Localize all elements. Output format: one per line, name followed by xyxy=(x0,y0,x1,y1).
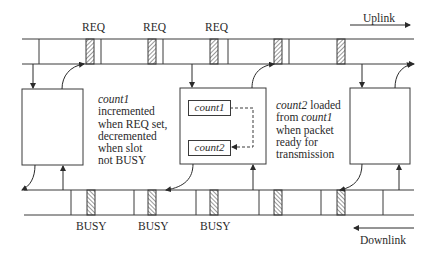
req-label: REQ xyxy=(205,21,228,33)
busy-label: BUSY xyxy=(76,220,107,232)
node-right xyxy=(350,88,410,164)
busy-label: BUSY xyxy=(200,220,231,232)
uplink-label: Uplink xyxy=(363,12,395,24)
count1-register: count1 xyxy=(188,100,231,116)
busy-label: BUSY xyxy=(138,220,169,232)
count2-note: count2 loaded from count1 when packet re… xyxy=(276,99,341,160)
req-label: REQ xyxy=(143,21,166,33)
req-label: REQ xyxy=(82,21,105,33)
node-left xyxy=(22,89,83,165)
count2-register: count2 xyxy=(188,140,231,156)
uplink-req-slots xyxy=(86,39,345,64)
downlink-bus xyxy=(24,190,414,215)
count1-note: count1 incremented when REQ set, decreme… xyxy=(98,93,167,167)
dqdb-bus-diagram xyxy=(0,0,429,254)
count1-var: count1 xyxy=(98,93,167,105)
downlink-label: Downlink xyxy=(360,234,406,246)
downlink-busy-slots xyxy=(87,190,345,215)
